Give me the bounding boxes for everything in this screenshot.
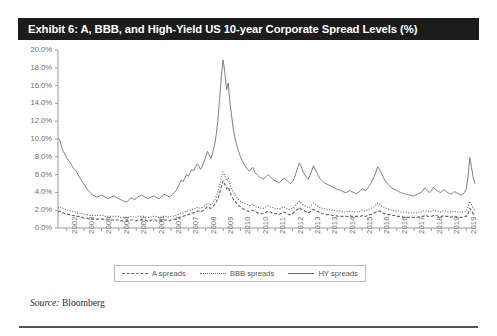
legend-line-solid-icon	[288, 270, 314, 277]
chart-legend: A spreads BBB spreads HY spreads	[114, 265, 366, 282]
series-line-bbb-spreads	[58, 172, 475, 217]
legend-label-a-spreads: A spreads	[152, 269, 186, 278]
legend-item-hy-spreads: HY spreads	[288, 269, 358, 278]
spread-levels-line-chart	[18, 44, 479, 292]
exhibit-figure: Exhibit 6: A, BBB, and High-Yield US 10-…	[0, 0, 497, 336]
bottom-divider	[19, 326, 478, 328]
series-line-hy-spreads	[58, 60, 475, 202]
legend-line-dotted-icon	[200, 270, 226, 277]
source-note: Source: Bloomberg	[30, 297, 105, 308]
source-prefix: Source:	[30, 297, 59, 308]
source-value: Bloomberg	[62, 297, 105, 308]
series-line-a-spreads	[58, 181, 475, 221]
legend-label-bbb-spreads: BBB spreads	[230, 269, 274, 278]
exhibit-title-bar: Exhibit 6: A, BBB, and High-Yield US 10-…	[18, 18, 479, 40]
legend-label-hy-spreads: HY spreads	[318, 269, 358, 278]
page-title: Exhibit 6: A, BBB, and High-Yield US 10-…	[28, 23, 417, 35]
legend-item-bbb-spreads: BBB spreads	[200, 269, 274, 278]
legend-item-a-spreads: A spreads	[122, 269, 186, 278]
legend-line-dashed-icon	[122, 270, 148, 277]
chart-container: 0.0%2.0%4.0%6.0%8.0%10.0%12.0%14.0%16.0%…	[18, 44, 479, 292]
